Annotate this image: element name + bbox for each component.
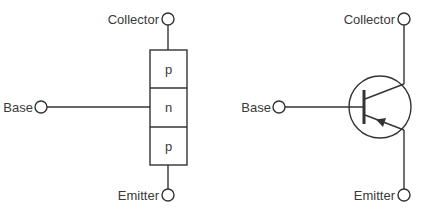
layer-top-label: p xyxy=(165,62,172,77)
right-emitter-label: Emitter xyxy=(354,188,396,203)
left-emitter-label: Emitter xyxy=(118,188,160,203)
left-collector-label: Collector xyxy=(108,12,160,27)
right-collector-terminal-icon xyxy=(398,13,410,25)
left-base-label: Base xyxy=(3,100,33,115)
right-collector-label: Collector xyxy=(344,12,396,27)
transistor-diagram: Collector p n p Base Emitter Collector xyxy=(0,0,422,209)
left-collector-terminal-icon xyxy=(162,13,174,25)
pnp-layer-structure: Collector p n p Base Emitter xyxy=(3,12,187,203)
left-base-terminal-icon xyxy=(35,101,47,113)
right-emitter-terminal-icon xyxy=(398,189,410,201)
pnp-transistor-symbol: Collector Base Emitter xyxy=(241,12,411,203)
layer-middle-label: n xyxy=(165,100,172,115)
left-emitter-terminal-icon xyxy=(162,189,174,201)
emitter-arrow-icon xyxy=(376,118,386,127)
layer-bottom-label: p xyxy=(165,139,172,154)
right-base-label: Base xyxy=(241,100,271,115)
right-base-terminal-icon xyxy=(273,101,285,113)
collector-diagonal xyxy=(365,84,404,99)
